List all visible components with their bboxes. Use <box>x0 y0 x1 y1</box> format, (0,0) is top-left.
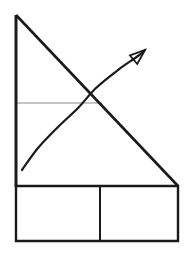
rising-curve <box>22 50 145 170</box>
diagram-svg <box>0 0 196 256</box>
rising-curve-group <box>22 50 145 170</box>
descending-line <box>16 15 178 186</box>
table-cell-right[interactable] <box>100 186 178 241</box>
bottom-table <box>16 186 178 241</box>
table-cell-left[interactable] <box>16 186 100 241</box>
diagram-canvas <box>0 0 196 256</box>
